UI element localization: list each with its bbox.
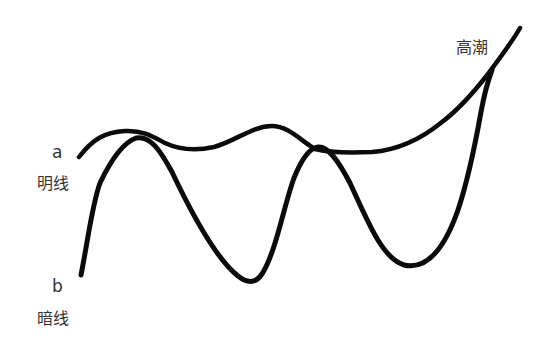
label-climax: 高潮 xyxy=(456,40,488,56)
diagram-canvas: a 明线 b 暗线 高潮 xyxy=(0,0,543,355)
label-b-dark-line: 暗线 xyxy=(37,311,69,327)
label-a-letter: a xyxy=(52,144,62,161)
curve-b-dark-line xyxy=(81,70,492,281)
label-b-letter: b xyxy=(52,278,63,295)
label-a-bright-line: 明线 xyxy=(37,176,69,192)
